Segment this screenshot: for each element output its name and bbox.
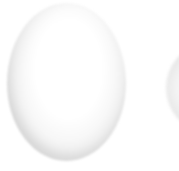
egg-main <box>7 3 126 161</box>
photo-canvas <box>0 0 179 171</box>
egg-partial-right <box>166 46 179 130</box>
